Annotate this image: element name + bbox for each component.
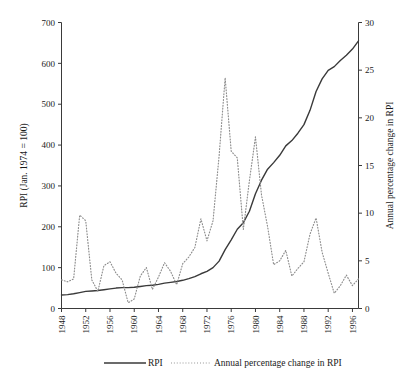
right-tick-label: 20 [365, 113, 375, 123]
legend-label-annual-pct-change: Annual percentage change in RPI [214, 358, 342, 368]
axes [62, 23, 359, 309]
right-axis-ticks: 051015202530 [359, 18, 375, 314]
axis-titles: RPI (Jan. 1974 = 100)Annual percentage c… [19, 102, 395, 230]
series-line-rpi [62, 41, 359, 295]
x-tick-label: 1952 [81, 316, 91, 334]
left-tick-label: 0 [51, 304, 56, 314]
right-axis-title: Annual percentage change in RPI [385, 102, 395, 230]
rpi-line-chart: 0100200300400500600700 051015202530 1948… [0, 0, 415, 381]
chart-container: 0100200300400500600700 051015202530 1948… [0, 0, 415, 381]
x-tick-label: 1992 [323, 316, 333, 334]
left-axis-ticks: 0100200300400500600700 [42, 18, 62, 314]
left-tick-label: 200 [42, 222, 56, 232]
left-axis-title: RPI (Jan. 1974 = 100) [19, 123, 30, 207]
left-tick-label: 700 [42, 18, 56, 28]
x-tick-label: 1976 [226, 315, 236, 334]
x-tick-label: 1964 [154, 315, 164, 334]
legend-label-rpi: RPI [148, 358, 163, 368]
left-tick-label: 500 [42, 99, 56, 109]
x-tick-label: 1956 [105, 315, 115, 334]
left-tick-label: 300 [42, 181, 56, 191]
data-series [62, 41, 359, 303]
x-axis-ticks: 1948195219561960196419681972197619801984… [57, 309, 358, 334]
left-tick-label: 600 [42, 59, 56, 69]
right-tick-label: 25 [365, 65, 375, 75]
right-tick-label: 5 [365, 256, 370, 266]
x-tick-label: 1960 [129, 315, 139, 334]
right-tick-label: 10 [365, 208, 375, 218]
left-tick-label: 100 [42, 263, 56, 273]
chart-legend: RPIAnnual percentage change in RPI [104, 358, 342, 368]
x-tick-label: 1988 [299, 315, 309, 334]
right-tick-label: 0 [365, 304, 370, 314]
x-tick-label: 1948 [57, 315, 67, 334]
left-tick-label: 400 [42, 140, 56, 150]
right-tick-label: 15 [365, 161, 375, 171]
x-tick-label: 1980 [251, 315, 261, 334]
x-tick-label: 1968 [178, 315, 188, 334]
x-tick-label: 1996 [348, 315, 358, 334]
x-tick-label: 1984 [275, 315, 285, 334]
axis-frame [62, 23, 359, 309]
right-tick-label: 30 [365, 18, 375, 28]
x-tick-label: 1972 [202, 316, 212, 334]
